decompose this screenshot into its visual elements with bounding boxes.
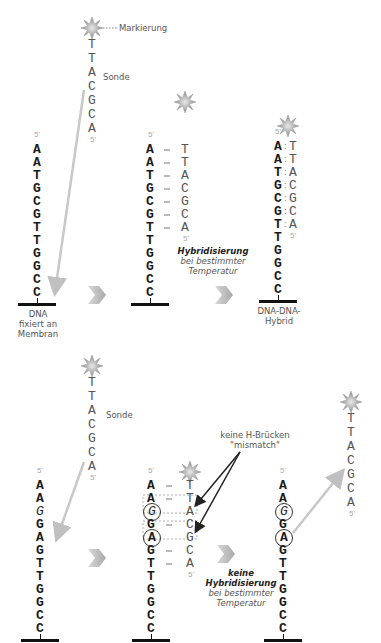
probe-base: A	[86, 66, 98, 79]
mismatch-label: keine H-Brücken "mismatch"	[220, 430, 290, 450]
probe-base: A	[179, 221, 191, 234]
five-prime-label: 5'	[148, 130, 154, 139]
membrane	[131, 303, 169, 306]
probe-base: C	[86, 418, 98, 431]
five-prime-label: 5'	[148, 466, 154, 475]
five-prime-label: 5'	[34, 130, 40, 139]
membrane	[259, 300, 297, 303]
probe-label: Sonde	[103, 72, 130, 82]
membrane	[21, 639, 59, 642]
five-prime-label: 5'	[349, 509, 355, 518]
marker-star-icon	[81, 355, 103, 377]
no-hybridization-caption: keine Hybridisierung bei bestimmter Temp…	[196, 568, 286, 608]
probe-base: A	[184, 557, 196, 570]
probe-base: A	[86, 122, 98, 135]
probe-base: T	[86, 376, 98, 389]
probe-base: T	[86, 38, 98, 51]
probe-base: G	[345, 468, 357, 481]
probe-base: C	[86, 446, 98, 459]
marker-star-icon	[340, 391, 362, 413]
five-prime-label: 5'	[90, 473, 96, 482]
five-prime-label: 5'	[280, 466, 286, 475]
probe-base: C	[86, 80, 98, 93]
five-prime-label: 5'	[90, 135, 96, 144]
probe-base: C	[345, 482, 357, 495]
membrane	[264, 639, 302, 642]
five-prime-label: 5'	[37, 466, 43, 475]
probe-label: Sonde	[106, 410, 133, 420]
probe-base: G	[86, 432, 98, 445]
marker-label: Markierung	[119, 23, 167, 33]
five-prime-label: 5'	[183, 234, 189, 243]
dna-fixed-label: DNA fixiert an Membran	[8, 309, 68, 339]
probe-base: A	[345, 440, 357, 453]
hybridization-caption: Hybridisierung bei bestimmter Temperatur	[168, 246, 258, 276]
probe-base: C	[345, 454, 357, 467]
probe-base: A	[86, 404, 98, 417]
probe-base: T	[345, 412, 357, 425]
probe-base: T	[86, 52, 98, 65]
marker-star-icon	[174, 91, 196, 113]
five-prime-label: 5'	[275, 127, 281, 136]
five-prime-label: 5'	[290, 231, 296, 240]
probe-base: G	[86, 94, 98, 107]
hybrid-label: DNA-DNA- Hybrid	[248, 306, 310, 326]
membrane	[18, 303, 56, 306]
probe-base: T	[345, 426, 357, 439]
probe-base: A	[287, 218, 299, 231]
marker-star-icon	[81, 17, 103, 39]
membrane	[132, 639, 170, 642]
probe-base: T	[86, 390, 98, 403]
probe-base: A	[345, 496, 357, 509]
probe-base: C	[86, 108, 98, 121]
five-prime-label: 5'	[188, 570, 194, 579]
probe-base: A	[86, 460, 98, 473]
